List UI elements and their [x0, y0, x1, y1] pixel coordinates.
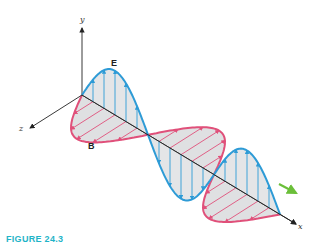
figure-caption: FIGURE 24.3	[6, 234, 63, 244]
propagation-arrow-icon	[279, 184, 296, 193]
electric-field-label: E	[111, 58, 117, 68]
z-axis-label: z	[19, 124, 23, 133]
x-axis-label: x	[298, 222, 303, 231]
y-axis-label: y	[80, 15, 85, 24]
magnetic-field-label: B	[88, 141, 95, 151]
